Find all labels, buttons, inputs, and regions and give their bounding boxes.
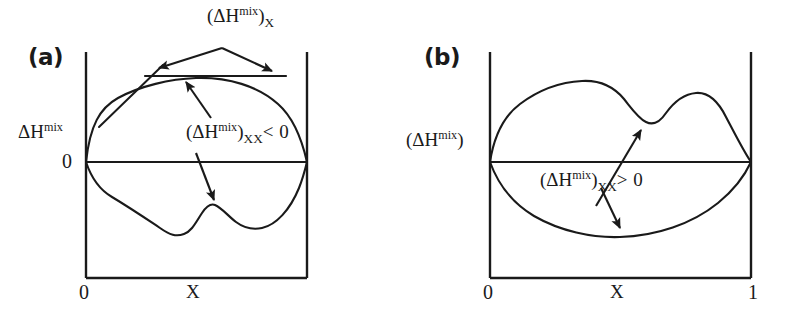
panel-a-first-derivative-label: (ΔHmix)X bbox=[207, 4, 274, 31]
panel-a-sd-superscript: mix bbox=[218, 120, 237, 134]
panel-a-axes bbox=[86, 52, 307, 278]
panel-b-sd-subscript: XX bbox=[598, 179, 617, 194]
panel-a-fd-superscript: mix bbox=[239, 4, 258, 18]
figure-canvas bbox=[0, 0, 801, 317]
panel-b-x-tick-0: 0 bbox=[483, 281, 493, 304]
panel-b-sd-superscript: mix bbox=[572, 168, 591, 182]
arrow-to-horizontal-tangent bbox=[222, 48, 272, 71]
panel-a-sd-prefix: (ΔH bbox=[186, 121, 218, 142]
panel-a-tag: (a) bbox=[28, 44, 63, 70]
panel-a-x-axis-label: X bbox=[186, 281, 200, 303]
arrow-to-sloped-tangent bbox=[159, 48, 222, 68]
panel-b-tag: (b) bbox=[424, 44, 460, 70]
panel-b-second-derivative-label: (ΔHmix)XX> 0 bbox=[540, 168, 643, 195]
curve-upper-double-hump bbox=[490, 81, 751, 162]
panel-a-fd-subscript: X bbox=[265, 15, 275, 30]
panel-a-sd-relation: < 0 bbox=[263, 121, 289, 142]
arrow-to-upper-peak bbox=[186, 82, 211, 118]
panel-b-x-axis-label: X bbox=[610, 281, 624, 303]
panel-b-y-axis-label: (ΔHmix) bbox=[406, 128, 464, 151]
curve-lower-double-well bbox=[86, 162, 307, 235]
panel-a-sd-subscript: XX bbox=[244, 131, 263, 146]
panel-a-y-axis-label: ΔHmix bbox=[18, 120, 63, 143]
panel-a-y-axis-base: ΔH bbox=[18, 121, 44, 142]
panel-b-y-axis-base: (ΔH bbox=[406, 129, 438, 150]
tangent-line-sloped bbox=[99, 65, 163, 127]
panel-b-curves bbox=[490, 81, 751, 237]
panel-a-curves bbox=[86, 65, 307, 235]
panel-a-y-axis-superscript: mix bbox=[44, 120, 63, 134]
arrow-to-lower-hump bbox=[196, 153, 214, 200]
panel-a-second-derivative-label: (ΔHmix)XX< 0 bbox=[186, 120, 289, 147]
panel-b-y-axis-superscript: mix bbox=[438, 128, 457, 142]
panel-b-y-axis-close: ) bbox=[457, 129, 463, 150]
panel-b-x-tick-1: 1 bbox=[748, 281, 758, 304]
panel-a-zero-tick: 0 bbox=[62, 150, 72, 173]
panel-a-x-tick-0: 0 bbox=[79, 281, 89, 304]
panel-b-sd-relation: > 0 bbox=[617, 169, 643, 190]
figure-container: (a) ΔHmix 0 0 X (ΔHmix)X (ΔHmix)XX< 0 (b… bbox=[0, 0, 801, 317]
panel-a-fd-prefix: (ΔH bbox=[207, 5, 239, 26]
panel-b-sd-prefix: (ΔH bbox=[540, 169, 572, 190]
